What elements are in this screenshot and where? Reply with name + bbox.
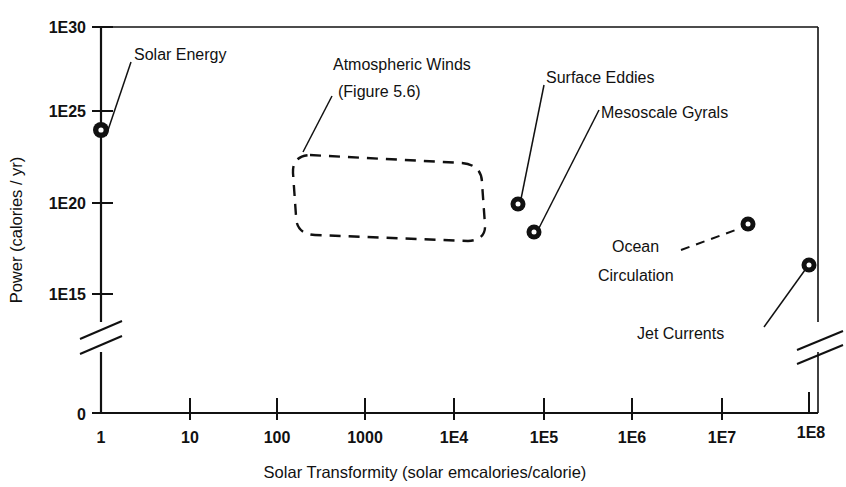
x-axis-break-icon bbox=[797, 331, 843, 364]
label-ocean-circulation-line2: Circulation bbox=[598, 267, 674, 284]
x-tick-label-1e8: 1E8 bbox=[797, 424, 826, 441]
y-axis-title: Power (calories / yr) bbox=[7, 157, 25, 304]
label-mesoscale-gyrals: Mesoscale Gyrals bbox=[601, 104, 728, 121]
x-tick-label-1: 1 bbox=[97, 429, 106, 446]
data-point-surface-eddies[interactable] bbox=[511, 197, 526, 212]
leader-ocean-circulation bbox=[681, 228, 741, 250]
leader-mesoscale-gyrals bbox=[539, 110, 599, 228]
y-axis: 1E30 1E25 1E20 1E15 0 Power (calories / … bbox=[7, 19, 122, 423]
leader-solar-energy bbox=[106, 62, 131, 136]
leader-surface-eddies bbox=[521, 85, 544, 199]
leader-lines bbox=[106, 62, 805, 327]
atmospheric-winds-region bbox=[293, 155, 485, 241]
label-figure-reference: (Figure 5.6) bbox=[338, 83, 421, 100]
label-jet-currents: Jet Currents bbox=[637, 325, 724, 342]
y-axis-break-icon bbox=[80, 321, 122, 354]
scatter-chart: 1E30 1E25 1E20 1E15 0 Power (calories / … bbox=[0, 0, 846, 487]
leader-jet-currents bbox=[764, 270, 805, 327]
data-point-jet-currents[interactable] bbox=[802, 258, 817, 273]
annotation-labels: Solar Energy Atmospheric Winds (Figure 5… bbox=[134, 46, 728, 342]
y-tick-label-1e20: 1E20 bbox=[49, 195, 86, 212]
x-axis: 1 10 100 1000 1E4 1E5 1E6 1E7 1E8 Solar … bbox=[97, 331, 843, 481]
x-tick-label-1e4: 1E4 bbox=[440, 429, 469, 446]
label-solar-energy: Solar Energy bbox=[134, 46, 227, 63]
x-tick-label-1000: 1000 bbox=[347, 429, 383, 446]
x-tick-label-1e7: 1E7 bbox=[708, 429, 737, 446]
label-atmospheric-winds: Atmospheric Winds bbox=[333, 56, 471, 73]
x-tick-label-1e6: 1E6 bbox=[618, 429, 647, 446]
data-points bbox=[93, 122, 817, 273]
label-ocean-circulation-line1: Ocean bbox=[612, 238, 659, 255]
x-tick-label-10: 10 bbox=[181, 429, 199, 446]
data-point-mesoscale-gyrals[interactable] bbox=[527, 225, 542, 240]
y-tick-label-0: 0 bbox=[77, 406, 86, 423]
figure-container: 1E30 1E25 1E20 1E15 0 Power (calories / … bbox=[0, 0, 846, 487]
y-tick-label-1e15: 1E15 bbox=[49, 286, 86, 303]
label-surface-eddies: Surface Eddies bbox=[546, 69, 655, 86]
y-tick-label-1e30: 1E30 bbox=[49, 19, 86, 36]
leader-atmospheric-winds bbox=[303, 96, 332, 152]
x-axis-title: Solar Transformity (solar emcalories/cal… bbox=[264, 463, 587, 481]
x-tick-label-1e5: 1E5 bbox=[530, 429, 559, 446]
y-tick-label-1e25: 1E25 bbox=[49, 103, 86, 120]
data-point-ocean-circulation[interactable] bbox=[741, 217, 756, 232]
data-point-solar-energy[interactable] bbox=[93, 122, 109, 138]
plot-frame bbox=[101, 27, 818, 413]
x-tick-label-100: 100 bbox=[264, 429, 291, 446]
